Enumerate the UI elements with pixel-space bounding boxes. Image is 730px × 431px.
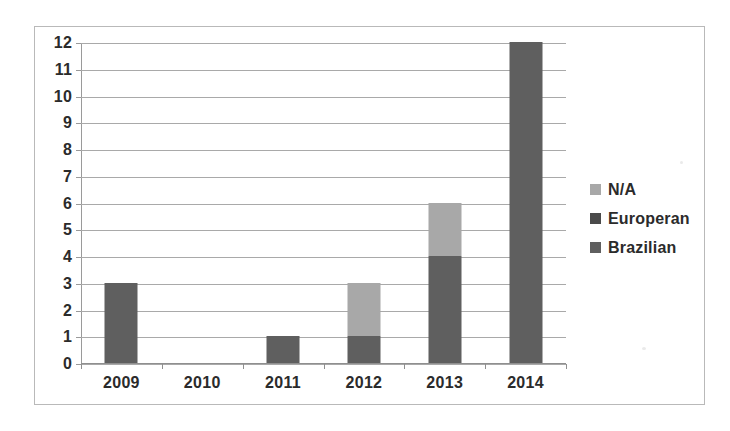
bar-segment-2014-brazilian: [509, 42, 542, 363]
plot-area: 0123456789101112 20092010201120122013201…: [81, 43, 566, 364]
x-tick-4: [404, 364, 405, 369]
bar-group-2013: [404, 43, 485, 363]
legend-swatch-na: [590, 184, 601, 195]
bar-group-2014: [485, 43, 566, 363]
y-axis-label-6: 6: [63, 195, 72, 213]
chart-frame: 0123456789101112 20092010201120122013201…: [34, 26, 705, 405]
legend-swatch-europeran: [590, 213, 601, 224]
legend-item-na[interactable]: N/A: [590, 175, 695, 204]
chart-legend: N/AEuroperanBrazilian: [590, 175, 695, 262]
x-tick-3: [324, 364, 325, 369]
x-axis-label-2011: 2011: [243, 374, 324, 392]
x-tick-0: [81, 364, 82, 369]
x-tick-2: [243, 364, 244, 369]
legend-label: N/A: [608, 181, 636, 199]
y-axis-label-4: 4: [63, 248, 72, 266]
bar-group-2012: [324, 43, 405, 363]
bar-group-2009: [81, 43, 162, 363]
y-axis-label-10: 10: [54, 88, 72, 106]
x-axis-label-2014: 2014: [485, 374, 566, 392]
bar-segment-2012-na: [347, 283, 380, 337]
y-axis-label-9: 9: [63, 114, 72, 132]
legend-swatch-brazilian: [590, 242, 601, 253]
x-axis-label-2012: 2012: [324, 374, 405, 392]
bar-segment-2009-brazilian: [105, 283, 138, 363]
bar-group-2011: [243, 43, 324, 363]
bar-segment-2011-brazilian: [267, 336, 300, 363]
x-axis-label-2010: 2010: [162, 374, 243, 392]
scan-speckle: [680, 161, 683, 164]
y-axis-label-1: 1: [63, 328, 72, 346]
bar-group-2010: [162, 43, 243, 363]
y-axis-label-11: 11: [55, 61, 72, 79]
y-axis-label-2: 2: [63, 302, 72, 320]
x-tick-5: [485, 364, 486, 369]
bar-segment-2012-brazilian: [347, 336, 380, 363]
y-axis-label-12: 12: [54, 34, 72, 52]
legend-label: Europeran: [608, 210, 690, 228]
x-tick-1: [162, 364, 163, 369]
x-tick-6: [566, 364, 567, 369]
y-axis-label-8: 8: [63, 141, 72, 159]
bar-stack-2009: [105, 283, 138, 363]
scan-speckle: [642, 347, 646, 350]
bar-stack-2014: [509, 42, 542, 363]
y-axis-label-0: 0: [63, 355, 72, 373]
y-axis-label-3: 3: [63, 275, 72, 293]
x-axis-label-2013: 2013: [404, 374, 485, 392]
legend-item-brazilian[interactable]: Brazilian: [590, 233, 695, 262]
legend-item-europeran[interactable]: Europeran: [590, 204, 695, 233]
legend-label: Brazilian: [608, 239, 677, 257]
bar-stack-2012: [347, 283, 380, 363]
bar-stack-2011: [267, 336, 300, 363]
x-axis-label-2009: 2009: [81, 374, 162, 392]
bar-segment-2013-na: [428, 203, 461, 257]
y-axis-label-5: 5: [63, 221, 72, 239]
bar-stack-2013: [428, 203, 461, 364]
bar-segment-2013-brazilian: [428, 256, 461, 363]
y-axis-label-7: 7: [63, 168, 72, 186]
